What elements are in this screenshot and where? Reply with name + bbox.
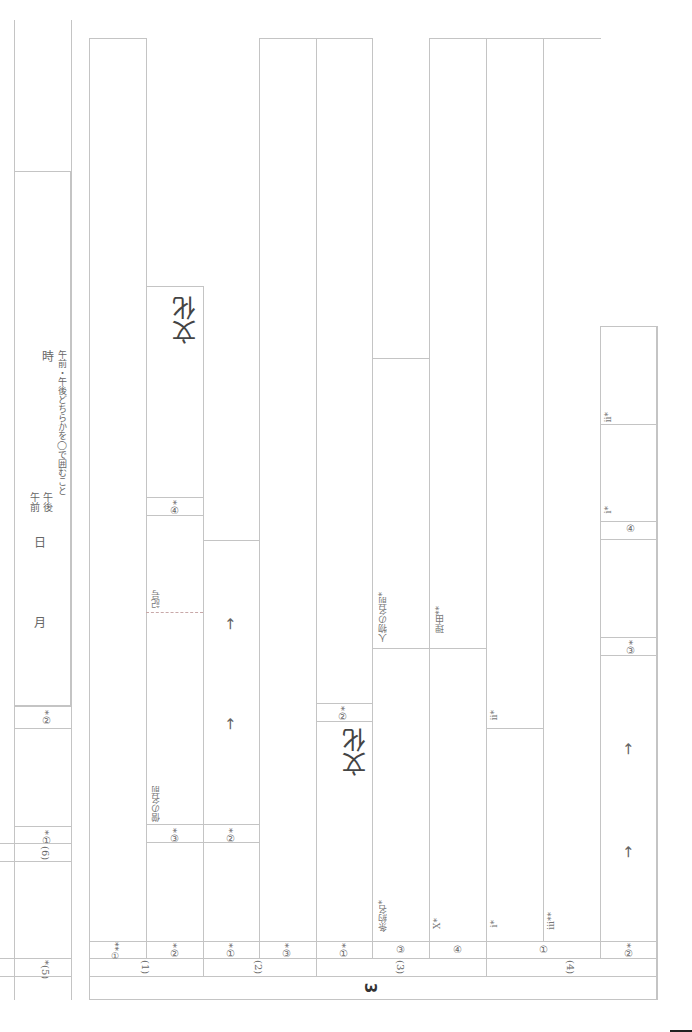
item-3-2-label-bottom [316,721,372,722]
item-4-3-label-top [600,637,657,638]
item-5-bottom-line [0,976,71,977]
item-6-label: (6) [40,846,51,860]
item-1-3-caption: 僧の名前 [148,786,161,822]
item-4-4-label: ④ [624,523,635,534]
datetime-hour: 時 [38,350,55,362]
item-4-2-arrow-1: → [619,743,637,756]
item-3-4-reason-caption: 理由** [432,606,445,633]
col-line-259 [259,38,260,958]
item-1-4-label-bottom [146,515,203,516]
col-line-543 [543,38,544,958]
item-6-2-bottom-line [14,728,71,729]
item-3-1-label: *① [337,943,348,959]
group-sep-3 [486,958,487,976]
col-line-429 [429,38,430,958]
item-2-3-label: *③ [280,943,291,959]
datetime-pm: 午後 [39,492,54,512]
item-4-sep [600,941,601,958]
section-3-frame [89,38,657,1000]
group-sep-1 [203,958,204,976]
col-line-486 [486,38,487,976]
item-4-4-label-top [600,521,657,522]
gap-cover-3 [601,37,658,327]
item-5-top-line [0,958,71,959]
item-4-1-iii-caption: iii** [546,912,556,930]
item-4-4-ii-caption: ii* [603,412,613,422]
item-1-4-label-top [146,497,203,498]
item-2-2-top [203,540,259,541]
col-line-600 [600,326,601,958]
group-2-label: (2) [253,960,264,974]
item-4-3-label: *③ [624,640,635,656]
item-4-3-label-bottom [600,655,657,656]
item-4-2-top-line [600,326,657,327]
datetime-day: 日 [30,536,47,548]
item-2-2-arrow-1: → [221,618,239,631]
section-number: 3 [361,983,379,993]
group-3-label: (3) [395,960,406,974]
section-row-top [89,976,657,977]
group-1-label: (1) [140,960,151,974]
col-line-316 [316,38,317,976]
item-3-3-person-caption: 人物の名前* [375,592,388,642]
item-4-4-i-caption: i* [603,506,613,513]
item-4-4-ii-top [600,424,657,425]
datetime-label-line [14,706,71,707]
item-4-2-arrow-2: → [619,846,637,859]
item-3-divider [372,648,486,649]
item-3-4-label: ④ [451,944,462,955]
item-6-2-label: *② [40,710,51,726]
item-4-1-ii-top [486,728,543,729]
item-4-1-label: ① [537,944,548,955]
left-inner-line [71,20,72,1000]
col-line-372 [372,38,373,958]
item-1-4-caption: 記号 [148,590,161,608]
item-3-4-caption: X* [432,918,442,929]
col-line-146 [146,38,147,958]
item-3-3-label: ③ [394,944,405,955]
item-3-2-label: *② [336,706,347,722]
group-4-label: (4) [565,960,576,974]
item-1-4-label: *④ [168,500,179,516]
datetime-instruction: 午前・午後どちらかを◯で囲むこと [56,350,69,495]
item-1-4-top [146,286,203,287]
datetime-month: 月 [30,616,47,628]
item-3-2-answer: 文化 [338,728,373,776]
item-1-1-label: **① [110,942,120,961]
item-1-2-label: *② [168,943,179,959]
item-6-1-bottom-line [0,843,71,844]
item-3-2-label-top [316,703,372,704]
item-6-1-top-line [14,826,71,827]
item-4-1-i-caption: i* [489,920,499,927]
item-6-bottom-line [0,861,71,862]
item-4-1-ii-caption: ii* [489,710,499,720]
item-2-2-arrow-2: → [221,718,239,731]
item-1-4-answer: 文化 [168,296,203,344]
frame-right-line [657,326,658,1000]
item-3-3-person-top [372,358,429,359]
item-1-3-label-bottom [146,842,259,843]
item-2-1-label: *① [224,943,235,959]
col-203-line [203,286,204,958]
item-4-2-label: *② [622,943,633,959]
item-3-3-caption: 条約名* [375,900,388,932]
group-sep-2 [316,958,317,976]
item-1-4-divider [146,612,203,613]
item-2-2-label: *② [224,828,235,844]
item-1-3-label-top [146,824,259,825]
item-4-4-label-bottom [600,539,657,540]
gap-cover-1 [147,37,259,40]
gap-cover-2 [373,37,429,40]
